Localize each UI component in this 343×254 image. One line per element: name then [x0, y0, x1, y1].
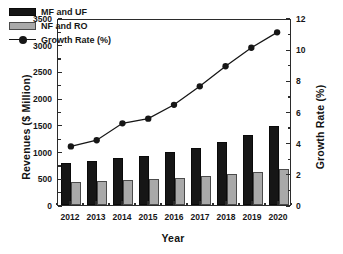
x-minor-tick-8: [264, 203, 265, 206]
chart-legend: MF and UF NF and RO Growth Rate (%): [9, 5, 111, 47]
growth-rate-point-2015: [145, 115, 151, 121]
y-tick-right-0: [286, 205, 290, 206]
y-tick-right-8: [286, 81, 290, 82]
x-tick-2018: [225, 201, 226, 205]
x-tick-2014: [121, 201, 122, 205]
y-tick-label-left-1000: 1000: [22, 148, 52, 158]
y-minor-tick-left-2250: [58, 85, 61, 86]
y-minor-tick-left-1250: [58, 139, 61, 140]
growth-rate-point-2014: [119, 120, 125, 126]
x-axis-title: Year: [48, 232, 298, 244]
growth-rate-markers: [68, 29, 281, 149]
y-tick-label-right-4: 4: [296, 139, 326, 149]
growth-rate-point-2019: [248, 45, 254, 51]
x-minor-tick-7: [238, 203, 239, 206]
y-minor-tick-right-1: [288, 190, 291, 191]
y-tick-right-6: [286, 112, 290, 113]
x-minor-tick-1: [82, 203, 83, 206]
x-minor-tick-2: [108, 203, 109, 206]
legend-item-mf-uf: MF and UF: [9, 5, 111, 18]
y-tick-left-2000: [58, 99, 62, 100]
x-tick-2016: [173, 201, 174, 205]
legend-item-nf-ro: NF and RO: [9, 19, 111, 32]
legend-label-mf-uf: MF and UF: [41, 7, 87, 17]
legend-item-growth-rate: Growth Rate (%): [9, 33, 111, 46]
growth-rate-line: [71, 32, 277, 146]
black-square-swatch-icon: [9, 8, 36, 16]
y-tick-right-4: [286, 143, 290, 144]
y-minor-tick-left-750: [58, 165, 61, 166]
growth-rate-point-2020: [274, 29, 280, 35]
growth-rate-point-2018: [222, 63, 228, 69]
growth-rate-point-2016: [171, 102, 177, 108]
legend-label-growth-rate: Growth Rate (%): [41, 35, 111, 45]
x-minor-tick-0: [56, 203, 57, 206]
y-tick-label-right-10: 10: [296, 45, 326, 55]
x-minor-tick-4: [160, 203, 161, 206]
growth-rate-point-2012: [68, 143, 74, 149]
x-tick-2020: [277, 201, 278, 205]
x-minor-tick-6: [212, 203, 213, 206]
y-tick-label-right-2: 2: [296, 170, 326, 180]
x-tick-2015: [147, 201, 148, 205]
y-tick-label-right-0: 0: [296, 201, 326, 211]
y-tick-right-2: [286, 174, 290, 175]
y-tick-left-1500: [58, 125, 62, 126]
x-minor-tick-5: [186, 203, 187, 206]
y-tick-right-10: [286, 50, 290, 51]
y-minor-tick-left-1750: [58, 112, 61, 113]
gray-square-swatch-icon: [9, 22, 36, 30]
x-tick-2019: [251, 201, 252, 205]
x-tick-2017: [199, 201, 200, 205]
x-tick-label-2020: 2020: [261, 212, 295, 222]
growth-rate-point-2013: [93, 137, 99, 143]
y-minor-tick-left-250: [58, 192, 61, 193]
y-tick-left-1000: [58, 152, 62, 153]
y-tick-label-right-8: 8: [296, 76, 326, 86]
growth-rate-point-2017: [197, 83, 203, 89]
revenue-growth-chart: Revenues ($ Million) Growth Rate (%) Yea…: [0, 0, 343, 254]
y-tick-label-left-0: 0: [22, 201, 52, 211]
y-tick-label-left-500: 500: [22, 174, 52, 184]
y-minor-tick-right-11: [288, 34, 291, 35]
growth-rate-line-layer: [58, 20, 290, 205]
y-tick-right-12: [286, 18, 290, 19]
y-tick-label-left-2000: 2000: [22, 94, 52, 104]
y-minor-tick-right-9: [288, 65, 291, 66]
y-minor-tick-right-7: [288, 96, 291, 97]
y-minor-tick-right-3: [288, 159, 291, 160]
y-tick-label-left-2500: 2500: [22, 67, 52, 77]
y-tick-label-right-12: 12: [296, 14, 326, 24]
y-tick-left-0: [58, 205, 62, 206]
x-minor-tick-3: [134, 203, 135, 206]
x-tick-2013: [95, 201, 96, 205]
y-minor-tick-left-2750: [58, 58, 61, 59]
y-tick-label-right-6: 6: [296, 108, 326, 118]
plot-area: [57, 19, 291, 206]
y-tick-label-left-1500: 1500: [22, 121, 52, 131]
x-minor-tick-9: [290, 203, 291, 206]
y-tick-left-500: [58, 179, 62, 180]
y-tick-left-2500: [58, 72, 62, 73]
y-minor-tick-right-5: [288, 127, 291, 128]
legend-label-nf-ro: NF and RO: [41, 21, 88, 31]
line-circle-marker-icon: [9, 36, 36, 44]
x-tick-2012: [69, 201, 70, 205]
